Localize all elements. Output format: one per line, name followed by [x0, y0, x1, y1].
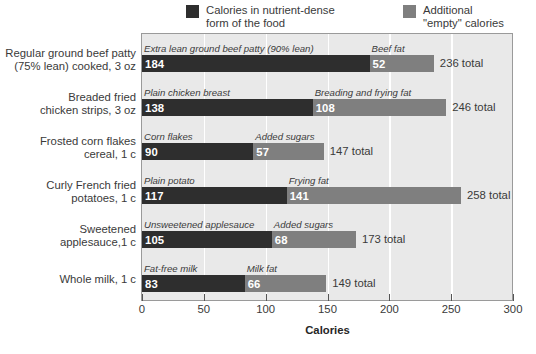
bar-segment-empty-calories: Breading and frying fat108 [313, 99, 447, 116]
legend-label: Calories in nutrient-dense form of the f… [206, 4, 335, 30]
category-label: Whole milk, 1 c [0, 273, 136, 286]
bar-segment-value: 184 [145, 58, 164, 70]
bar-segment-value: 117 [145, 190, 164, 202]
x-tick-label: 0 [139, 303, 145, 315]
bar-segment-caption: Plain potato [144, 175, 195, 186]
bar-segment-nutrient-dense: Corn flakes90 [142, 143, 253, 160]
x-tick-label: 250 [442, 303, 461, 315]
bar-segment-empty-calories: Beef fat52 [370, 55, 434, 72]
bar-segment-empty-calories: Milk fat66 [245, 275, 327, 292]
bar-segment-value: 141 [290, 190, 309, 202]
x-tick-mark [389, 294, 390, 301]
category-label: Regular ground beef patty (75% lean) coo… [0, 47, 136, 74]
bar-row: Plain potato117Frying fat141258 total [142, 170, 513, 214]
x-tick-mark [451, 294, 452, 301]
bar-row: Unsweetened applesauce105Added sugars681… [142, 214, 513, 258]
legend-swatch-empty-calories [403, 5, 416, 18]
bar-row: Corn flakes90Added sugars57147 total [142, 126, 513, 170]
legend-entry: Additional "empty" calories [403, 4, 504, 30]
bar-segment-caption: Extra lean ground beef patty (90% lean) [144, 43, 314, 54]
x-tick-label: 50 [198, 303, 211, 315]
x-tick-mark [142, 294, 143, 301]
x-axis: 050100150200250300 [142, 301, 513, 325]
bar-segment-value: 68 [275, 234, 288, 246]
category-label: Curly French fried potatoes, 1 c [0, 179, 136, 206]
bar-segment-caption: Added sugars [274, 219, 333, 230]
bar-segment-value: 83 [145, 278, 158, 290]
bar-segment-nutrient-dense: Unsweetened applesauce105 [142, 231, 272, 248]
bar-segment-value: 138 [145, 102, 164, 114]
bar-total-label: 149 total [326, 275, 375, 292]
x-tick-mark [266, 294, 267, 301]
bar-total-label: 236 total [434, 55, 483, 72]
bar-segment-value: 52 [373, 58, 386, 70]
bar-segment-caption: Unsweetened applesauce [144, 219, 254, 230]
x-tick-label: 300 [504, 303, 523, 315]
bar-segment-nutrient-dense: Plain chicken breast138 [142, 99, 313, 116]
category-label: Sweetened applesauce,1 c [0, 223, 136, 250]
legend-entry: Calories in nutrient-dense form of the f… [186, 4, 335, 30]
bar-row: Extra lean ground beef patty (90% lean)1… [142, 38, 513, 82]
bar-segment-nutrient-dense: Extra lean ground beef patty (90% lean)1… [142, 55, 370, 72]
bar-row: Plain chicken breast138Breading and fryi… [142, 82, 513, 126]
bar-segment-value: 105 [145, 234, 164, 246]
bar-total-label: 246 total [446, 99, 495, 116]
legend-swatch-nutrient-dense [186, 5, 199, 18]
category-label: Frosted corn flakes cereal, 1 c [0, 135, 136, 162]
x-tick-mark [328, 294, 329, 301]
bar-segment-caption: Beef fat [372, 43, 405, 54]
bar-total-label: 147 total [324, 143, 373, 160]
bar-segment-caption: Plain chicken breast [144, 87, 230, 98]
bar-segment-value: 66 [248, 278, 261, 290]
bar-segment-value: 108 [316, 102, 335, 114]
x-tick-mark [204, 294, 205, 301]
bar-segment-value: 57 [256, 146, 269, 158]
bar-segment-caption: Corn flakes [144, 131, 193, 142]
category-label: Breaded fried chicken strips, 3 oz [0, 91, 136, 118]
category-axis-labels: Regular ground beef patty (75% lean) coo… [0, 33, 136, 301]
bar-segment-caption: Frying fat [289, 175, 329, 186]
x-tick-label: 150 [318, 303, 337, 315]
bar-total-label: 258 total [461, 187, 510, 204]
bar-segment-caption: Milk fat [247, 263, 277, 274]
x-axis-title: Calories [142, 324, 513, 336]
bars-layer: Extra lean ground beef patty (90% lean)1… [142, 33, 513, 301]
x-tick-label: 200 [380, 303, 399, 315]
x-tick-label: 100 [256, 303, 275, 315]
bar-segment-empty-calories: Added sugars68 [272, 231, 356, 248]
legend-label: Additional "empty" calories [423, 4, 504, 30]
bar-segment-empty-calories: Added sugars57 [253, 143, 323, 160]
bar-segment-caption: Breading and frying fat [315, 87, 412, 98]
bar-segment-caption: Fat-free milk [144, 263, 197, 274]
x-tick-mark [513, 294, 514, 301]
bar-segment-nutrient-dense: Plain potato117 [142, 187, 287, 204]
bar-segment-empty-calories: Frying fat141 [287, 187, 461, 204]
bar-total-label: 173 total [356, 231, 405, 248]
bar-segment-nutrient-dense: Fat-free milk83 [142, 275, 245, 292]
bar-segment-caption: Added sugars [255, 131, 314, 142]
bar-segment-value: 90 [145, 146, 158, 158]
chart-legend: Calories in nutrient-dense form of the f… [0, 0, 536, 34]
